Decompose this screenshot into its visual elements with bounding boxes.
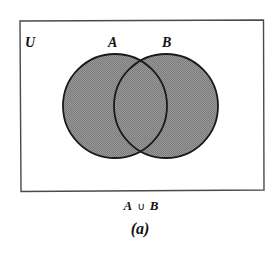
caption-set-a: A	[123, 198, 133, 213]
set-b-label: B	[161, 35, 171, 50]
venn-diagram: U A B A ∪ B (a)	[0, 0, 277, 267]
union-operator: ∪	[137, 200, 145, 213]
caption-expression: A ∪ B	[123, 198, 159, 213]
universe-label: U	[25, 35, 36, 50]
caption-set-b: B	[149, 198, 159, 213]
figure-sublabel: (a)	[131, 220, 150, 238]
set-a-label: A	[107, 35, 117, 50]
union-shading	[63, 54, 218, 158]
